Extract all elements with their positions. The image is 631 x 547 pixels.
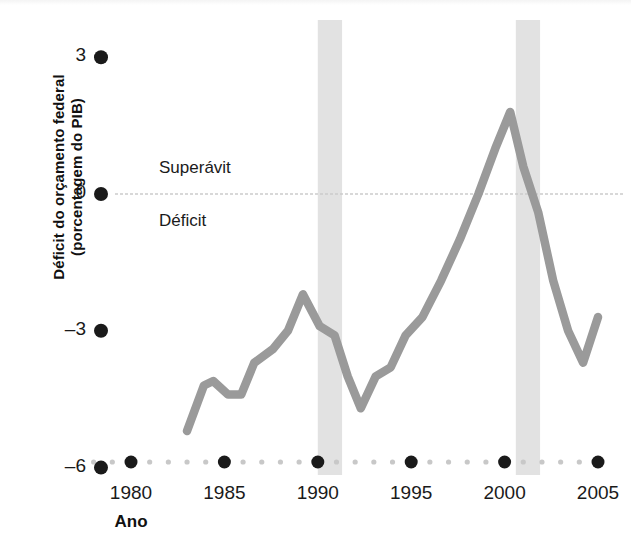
x-tick-dot-2000: [498, 456, 511, 469]
x-minor-tick-dot: [539, 459, 544, 464]
x-minor-tick-dot: [427, 459, 432, 464]
x-minor-tick-dot: [521, 459, 526, 464]
y-tick-dot--6: [94, 461, 108, 475]
recession-bands-group: [318, 20, 540, 475]
x-minor-tick-dot: [147, 459, 152, 464]
x-tick-label-2005: 2005: [558, 482, 631, 504]
chart-plot-area: [0, 0, 631, 547]
y-axis-tick-dots: [94, 50, 108, 474]
x-axis-title: Ano: [91, 512, 171, 532]
x-tick-dot-1990: [311, 456, 324, 469]
x-tick-label-1985: 1985: [184, 482, 264, 504]
y-tick-label--3: –3: [46, 318, 86, 340]
x-minor-tick-dot: [353, 459, 358, 464]
x-minor-tick-dot: [259, 459, 264, 464]
y-tick-dot-0: [94, 187, 108, 201]
deficit-label: Déficit: [159, 211, 206, 231]
x-minor-tick-dot: [278, 459, 283, 464]
x-minor-tick-dot: [483, 459, 488, 464]
x-tick-dot-1985: [218, 456, 231, 469]
x-tick-label-1995: 1995: [371, 482, 451, 504]
x-tick-label-1990: 1990: [278, 482, 358, 504]
y-tick-label--6: –6: [46, 455, 86, 477]
x-minor-tick-dot: [184, 459, 189, 464]
x-minor-tick-dot: [446, 459, 451, 464]
surplus-label: Superávit: [159, 158, 231, 178]
x-tick-dot-1995: [405, 456, 418, 469]
x-minor-tick-dot: [390, 459, 395, 464]
x-minor-tick-dot: [240, 459, 245, 464]
x-minor-tick-dot: [203, 459, 208, 464]
y-tick-dot--3: [94, 324, 108, 338]
x-minor-tick-dot: [110, 459, 115, 464]
x-minor-tick-dot: [465, 459, 470, 464]
y-tick-label-3: 3: [46, 44, 86, 66]
x-tick-label-2000: 2000: [465, 482, 545, 504]
x-tick-dot-2005: [592, 456, 605, 469]
y-tick-label-0: 0: [46, 181, 86, 203]
budget-deficit-chart: Déficit do orçamento federal (porcentage…: [0, 0, 631, 547]
x-minor-tick-dot: [371, 459, 376, 464]
x-minor-tick-dot: [558, 459, 563, 464]
x-tick-dot-1980: [125, 456, 138, 469]
x-minor-tick-dot: [577, 459, 582, 464]
x-minor-tick-dot: [297, 459, 302, 464]
x-minor-tick-dot: [334, 459, 339, 464]
recession-2000: [516, 20, 540, 475]
x-minor-tick-dot: [166, 459, 171, 464]
y-tick-dot-3: [94, 50, 108, 64]
recession-1990: [318, 20, 342, 475]
x-tick-label-1980: 1980: [91, 482, 171, 504]
